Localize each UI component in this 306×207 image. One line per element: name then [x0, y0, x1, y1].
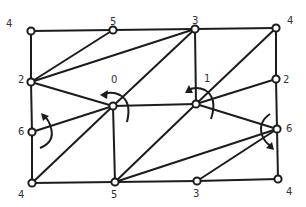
node-label-b5: 5	[111, 189, 117, 200]
edge-c0-t3	[113, 29, 195, 106]
node-b5	[111, 178, 118, 185]
node-label-r6: 6	[286, 123, 292, 134]
node-b3	[193, 177, 200, 184]
node-label-c1: 1	[204, 73, 210, 84]
edge-b5-r6	[115, 129, 277, 182]
node-label-t3: 3	[192, 15, 198, 26]
node-t3	[191, 25, 198, 32]
edge-l2-c0	[31, 82, 113, 106]
node-c1	[192, 100, 199, 107]
node-tr	[272, 24, 279, 31]
edge-c0-c1	[113, 104, 196, 106]
edge-b3-r6	[197, 129, 277, 181]
edge-l2-t5	[31, 30, 113, 82]
edge-b5-b3	[115, 181, 197, 182]
node-label-br: 4	[286, 186, 292, 197]
node-label-t5: 5	[110, 16, 116, 27]
node-label-b3: 3	[193, 188, 199, 199]
node-t5	[109, 26, 116, 33]
edge-c1-b5	[115, 104, 196, 182]
node-label-r2: 2	[283, 74, 289, 85]
edge-t5-t3	[113, 29, 195, 30]
edge-bl-b5	[32, 182, 115, 183]
edge-b3-br	[197, 179, 278, 181]
edge-c1-t3	[195, 29, 196, 104]
edge-t3-tr	[195, 28, 276, 29]
node-r6	[273, 125, 280, 132]
node-bl	[28, 179, 35, 186]
node-label-tl: 4	[6, 18, 12, 29]
node-br	[274, 175, 281, 182]
node-label-l6: 6	[18, 126, 24, 137]
edge-r6-br	[277, 129, 278, 179]
node-label-bl: 4	[18, 189, 24, 200]
graph-diagram: 45342201664534	[0, 0, 306, 207]
node-c0	[109, 102, 116, 109]
edge-c0-b5	[113, 106, 115, 182]
node-l6	[28, 128, 35, 135]
edges-group	[31, 28, 278, 183]
rotation-arrow-node-6-left	[40, 113, 52, 148]
node-l2	[27, 78, 34, 85]
node-tl	[27, 27, 34, 34]
edge-l2-l6	[31, 82, 32, 132]
node-r2	[272, 75, 279, 82]
node-label-tr: 4	[287, 15, 293, 26]
node-label-c0: 0	[111, 74, 117, 85]
edge-r2-r6	[276, 79, 277, 129]
node-label-l2: 2	[18, 74, 24, 85]
edge-tl-t5	[31, 30, 113, 31]
edge-c1-r6	[196, 104, 277, 129]
